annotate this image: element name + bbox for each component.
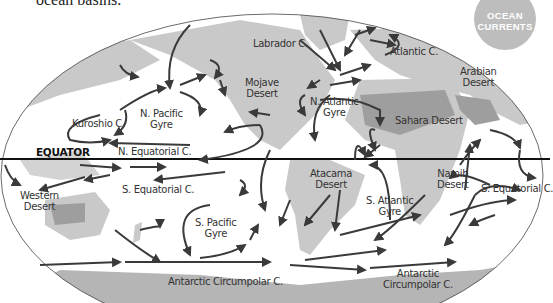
label-s-equatorial-current-pacific: S. Equatorial C.: [122, 184, 194, 195]
label-sahara-desert: Sahara Desert: [395, 115, 463, 126]
label-labrador-current: Labrador C.: [253, 38, 308, 49]
label-antarctic-circumpolar-current-1: Antarctic Circumpolar C.: [168, 276, 283, 287]
label-atacama-desert: AtacamaDesert: [310, 168, 352, 190]
label-equator: EQUATOR: [36, 147, 90, 158]
label-atlantic-current: Atlantic C.: [390, 46, 438, 57]
badge-line2: CURRENTS: [474, 21, 536, 32]
label-n-atlantic-gyre: N. AtlanticGyre: [310, 96, 359, 118]
badge-line1: OCEAN: [474, 10, 536, 21]
label-n-pacific-gyre: N. PacificGyre: [140, 108, 183, 130]
label-s-atlantic-gyre: S. AtlanticGyre: [366, 195, 413, 217]
label-western-desert: WesternDesert: [20, 190, 59, 212]
label-n-equatorial-current: N. Equatorial C.: [118, 146, 191, 157]
label-mojave-desert: MojaveDesert: [245, 77, 279, 99]
label-namib-desert: NamibDesert: [437, 168, 468, 190]
label-s-equatorial-current-indian: S. Equatorial C.: [481, 183, 553, 194]
label-antarctic-circumpolar-current-2: AntarcticCircumpolar C.: [383, 268, 453, 290]
label-kuroshio-current: Kuroshio C.: [72, 118, 125, 129]
label-arabian-desert: ArabianDesert: [460, 66, 497, 88]
label-s-pacific-gyre: S. PacificGyre: [195, 217, 237, 239]
